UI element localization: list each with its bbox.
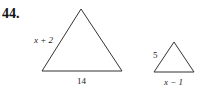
small-triangle-side-label: 5 — [153, 50, 158, 60]
large-triangle-side-label: x + 2 — [34, 35, 53, 45]
small-triangle-base-label: x − 1 — [164, 77, 183, 87]
large-triangle — [42, 9, 122, 71]
large-triangle-base-label: 14 — [77, 76, 86, 86]
small-triangle — [154, 42, 194, 72]
